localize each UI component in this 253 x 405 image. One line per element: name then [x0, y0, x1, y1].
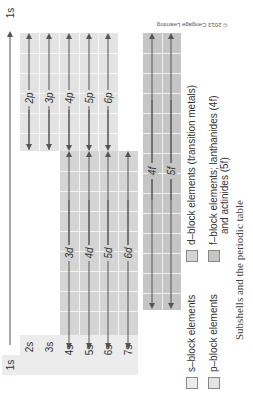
legend-s-block: s–block elements — [186, 295, 198, 372]
label-2p: 2p — [25, 90, 35, 106]
figure-caption: Subshells and the periodic table — [233, 200, 245, 340]
label-6p: 6p — [104, 90, 114, 106]
label-4p: 4p — [65, 90, 75, 106]
label-3p: 3p — [45, 90, 55, 106]
label-5d: 5d — [104, 245, 114, 261]
legend-p-block: p–block elements — [208, 294, 220, 372]
label-3d: 3d — [65, 245, 75, 261]
legend-d-block: d–block elements (transition metals) — [186, 85, 198, 245]
legend-swatch-d-block — [186, 250, 198, 262]
legend-swatch-s-block — [186, 377, 198, 389]
label-1s: 1s — [6, 357, 16, 373]
label-1s-top: 1s — [6, 5, 16, 21]
label-5s: 5s — [85, 342, 95, 358]
periodic-subshell-diagram: 1s 1s 2s 3s 4s 5s 6s 7s 2p 3p 4p 5p 6p 3… — [0, 0, 253, 405]
label-5p: 5p — [85, 90, 95, 106]
label-4f: 4f — [148, 163, 158, 179]
label-4d: 4d — [85, 245, 95, 261]
copyright-notice: © 2013 Cengage Learning — [157, 22, 227, 28]
label-4s: 4s — [65, 342, 75, 358]
label-2s: 2s — [25, 339, 35, 355]
label-6d: 6d — [124, 245, 134, 261]
label-3s: 3s — [45, 339, 55, 355]
legend-swatch-p-block — [208, 377, 220, 389]
legend-f-block-line2: and actinides (5f) — [219, 157, 231, 234]
label-7s: 7s — [124, 342, 134, 358]
label-5f: 5f — [167, 163, 177, 179]
legend-swatch-f-block — [208, 250, 220, 262]
label-6s: 6s — [104, 342, 114, 358]
